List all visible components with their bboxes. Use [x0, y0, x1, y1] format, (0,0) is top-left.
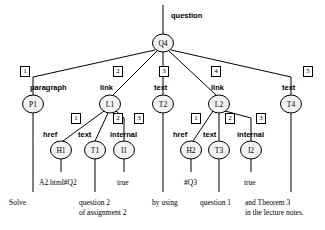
tree-node-label-i2: I2 — [248, 146, 254, 155]
edge-index-tag: 3 — [134, 113, 144, 124]
edge-index-tag: 2 — [225, 113, 235, 124]
node-type-label: href — [173, 131, 187, 139]
edge-index-tag: 2 — [113, 66, 123, 77]
node-type-label: paragraph — [30, 84, 67, 92]
edge-index-tag: 1 — [71, 113, 81, 124]
tree-node-label-q4: Q4 — [158, 39, 167, 48]
leaf-content-line: and Theorem 3 — [245, 198, 304, 208]
edge-index-tag: 2 — [113, 113, 123, 124]
tree-diagram: Q4P1L1T2L2T4H1T1I1H2T3I2 question 123451… — [0, 0, 325, 230]
tree-node-label-i1: I1 — [121, 146, 127, 155]
tree-node-label-l1: L1 — [106, 100, 115, 109]
node-type-label: link — [100, 84, 113, 92]
tree-node-label-t1: T1 — [91, 146, 100, 155]
edge — [169, 51, 216, 95]
leaf-value-label: A2.html#Q2 — [39, 178, 77, 188]
leaf-content-label: by using — [152, 198, 178, 208]
leaf-content-label: question 2of assignment 2 — [79, 198, 127, 217]
leaf-value-label: true — [117, 178, 129, 188]
edge-index-tag: 4 — [211, 66, 221, 77]
diagram-edges-layer: Q4P1L1T2L2T4H1T1I1H2T3I2 — [0, 0, 325, 230]
node-type-label: internal — [110, 131, 137, 139]
edge-index-tag: 1 — [20, 66, 30, 77]
leaf-content-line: in the lecture notes. — [245, 208, 304, 218]
node-type-label: text — [154, 84, 167, 92]
node-type-label: text — [203, 131, 216, 139]
tree-node-label-t2: T2 — [159, 100, 168, 109]
tree-node-label-h1: H1 — [56, 146, 65, 155]
node-type-label: link — [211, 84, 224, 92]
tree-node-label-h2: H2 — [186, 146, 195, 155]
node-type-label: text — [78, 131, 91, 139]
edge-index-tag: 3 — [256, 113, 266, 124]
leaf-content-label: question 1 — [200, 198, 231, 208]
leaf-value-label: #Q3 — [184, 178, 197, 188]
edge — [95, 113, 108, 141]
leaf-content-line: question 2 — [79, 198, 127, 208]
leaf-content-label: Solve — [9, 198, 26, 208]
tree-node-label-t4: T4 — [287, 100, 296, 109]
tree-node-label-l2: L2 — [215, 100, 224, 109]
leaf-content-line: of assignment 2 — [79, 208, 127, 218]
leaf-value-label: true — [244, 178, 256, 188]
leaf-content-line: Solve — [9, 198, 26, 208]
edge-index-tag: 3 — [159, 66, 169, 77]
leaf-content-line: by using — [152, 198, 178, 208]
edge — [171, 50, 291, 77]
tree-node-label-p1: P1 — [29, 100, 37, 109]
node-type-label: href — [43, 131, 57, 139]
leaf-content-line: question 1 — [200, 198, 231, 208]
edge-index-tag: 5 — [303, 66, 313, 77]
node-type-label: internal — [237, 131, 264, 139]
leaf-content-label: and Theorem 3in the lecture notes. — [245, 198, 304, 217]
edge-index-tag: 1 — [191, 113, 201, 124]
root-label: question — [171, 12, 202, 20]
edge — [33, 50, 155, 77]
tree-node-label-t3: T3 — [215, 146, 224, 155]
node-type-label: text — [282, 84, 295, 92]
